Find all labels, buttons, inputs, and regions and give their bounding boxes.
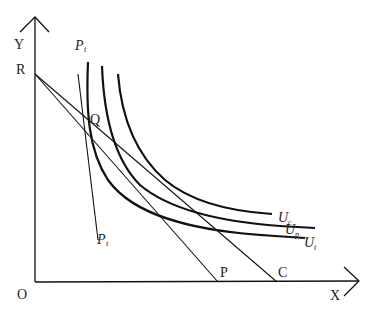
x-axis-label: X: [330, 288, 340, 303]
point-c-label: C: [278, 265, 287, 280]
svg-text:t: t: [84, 45, 87, 54]
pt-top-label: P t: [74, 38, 87, 54]
curve-uc: [118, 74, 272, 214]
axes: [20, 17, 359, 296]
budget-line-rp: [35, 74, 218, 282]
svg-text:p: p: [294, 230, 299, 239]
curve-up-label: U p: [285, 222, 299, 239]
x-axis: [35, 281, 358, 282]
svg-text:P: P: [74, 38, 84, 53]
pt-bottom-label: P t: [96, 232, 109, 248]
indifference-diagram: Y X O R Q P C P t P t U c U p U t: [0, 0, 377, 312]
y-axis-label: Y: [14, 37, 24, 52]
svg-text:P: P: [96, 232, 106, 247]
point-q-label: Q: [90, 112, 100, 127]
point-p-label: P: [220, 265, 228, 280]
svg-text:t: t: [106, 239, 109, 248]
budget-line-rc: [35, 74, 277, 282]
point-r-label: R: [16, 62, 26, 77]
origin-label: O: [17, 287, 27, 302]
svg-text:t: t: [314, 243, 317, 252]
curve-ut-label: U t: [304, 235, 317, 252]
